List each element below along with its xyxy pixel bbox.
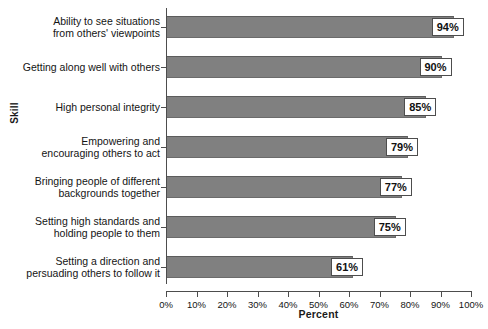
y-tick <box>161 227 166 228</box>
x-tick <box>288 292 289 297</box>
category-label: Empowering and encouraging others to act <box>8 135 160 160</box>
bar-value-label: 75% <box>374 218 406 236</box>
y-tick <box>161 107 166 108</box>
bar-chart: Skill Ability to see situations from oth… <box>0 0 488 329</box>
bar <box>167 56 442 78</box>
x-tick <box>380 292 381 297</box>
bar <box>167 16 454 38</box>
x-tick <box>319 292 320 297</box>
x-tick <box>258 292 259 297</box>
x-tick <box>410 292 411 297</box>
category-label: Getting along well with others <box>8 61 160 74</box>
bar <box>167 256 353 278</box>
y-tick <box>161 187 166 188</box>
y-tick <box>161 27 166 28</box>
bar <box>167 136 408 158</box>
bar <box>167 216 396 238</box>
x-tick <box>349 292 350 297</box>
x-tick <box>441 292 442 297</box>
x-tick <box>197 292 198 297</box>
category-label: Setting a direction and persuading other… <box>8 255 160 280</box>
category-label: Ability to see situations from others' v… <box>8 15 160 40</box>
bar-value-label: 77% <box>380 178 412 196</box>
category-label: Setting high standards and holding peopl… <box>8 215 160 240</box>
x-tick <box>471 292 472 297</box>
x-tick <box>227 292 228 297</box>
bar-value-label: 90% <box>420 58 452 76</box>
x-axis-title: Percent <box>166 308 471 320</box>
y-tick <box>161 147 166 148</box>
bar-value-label: 79% <box>386 138 418 156</box>
category-label: Bringing people of different backgrounds… <box>8 175 160 200</box>
bar-value-label: 85% <box>404 98 436 116</box>
category-label: High personal integrity <box>8 101 160 114</box>
plot-area: 0%10%20%30%40%50%60%70%80%90%100%94%90%8… <box>166 8 471 283</box>
x-tick <box>166 292 167 297</box>
bar-value-label: 94% <box>432 18 464 36</box>
y-tick <box>161 267 166 268</box>
bar <box>167 176 402 198</box>
bar-value-label: 61% <box>331 258 363 276</box>
y-tick <box>161 67 166 68</box>
bar <box>167 96 426 118</box>
category-axis-labels: Ability to see situations from others' v… <box>8 0 160 290</box>
